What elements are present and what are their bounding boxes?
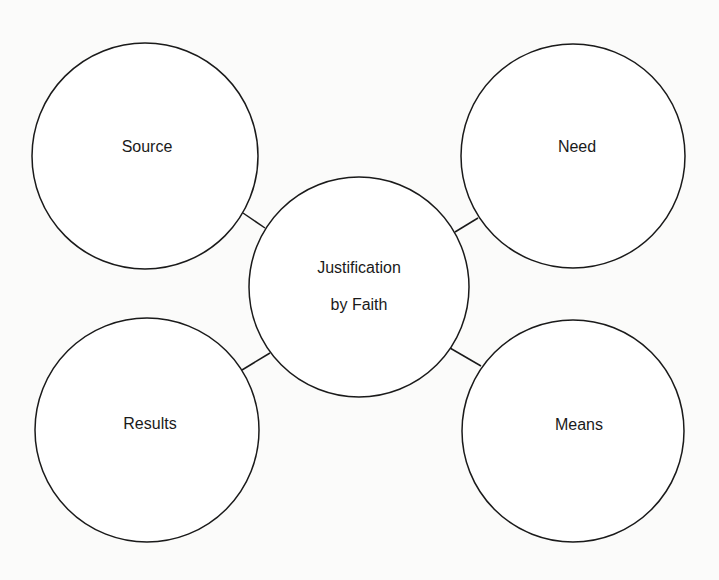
node-means: Means [462,320,684,542]
node-label-means: Means [555,416,603,433]
node-label-results: Results [123,415,176,432]
diagram-canvas: SourceNeedResultsMeans Justification by … [0,0,719,580]
node-source: Source [32,43,258,269]
center-label-line2: by Faith [331,296,388,313]
node-need: Need [461,44,685,268]
node-label-need: Need [558,138,596,155]
connector-need-center [455,218,478,232]
node-circle-need [461,44,685,268]
node-label-source: Source [122,138,173,155]
connector-means-center [450,348,481,366]
node-circle-source [32,43,258,269]
center-node-justification: Justification by Faith [249,177,469,397]
connector-source-center [243,213,265,228]
center-label-line1: Justification [317,259,401,276]
center-circle [249,177,469,397]
node-results: Results [35,318,259,542]
connector-results-center [242,353,270,370]
